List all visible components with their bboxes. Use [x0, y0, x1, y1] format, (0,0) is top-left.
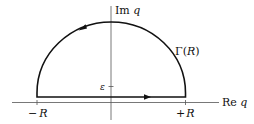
epsilon-label: ε	[100, 82, 105, 92]
arrow-right-icon	[144, 94, 151, 99]
arrow-arc-icon	[79, 24, 88, 30]
imag-axis-label: Im q	[115, 4, 140, 17]
minus-R-label: −R	[28, 107, 48, 120]
contour-label: Γ(R)	[175, 45, 200, 58]
contour-diagram: Im q Re q Γ(R) ε −R +R	[0, 0, 254, 124]
plus-R-label: +R	[176, 107, 195, 120]
real-axis-label: Re q	[222, 96, 247, 109]
